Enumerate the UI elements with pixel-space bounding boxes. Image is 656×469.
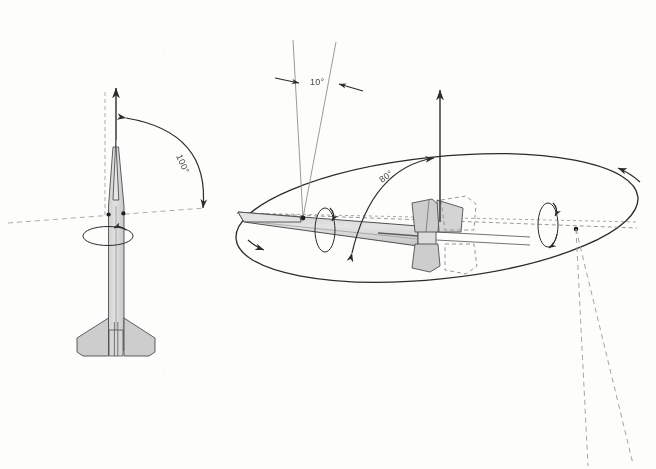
technical-diagram: 100° 10° <box>0 0 656 469</box>
paper-background <box>0 0 656 469</box>
diagram-canvas: 100° 10° <box>0 0 656 469</box>
rocket-fin-left-center <box>109 330 123 356</box>
pivot-point-left-b <box>121 211 125 215</box>
rocket-fin-right-upper-port <box>412 199 440 232</box>
cone-apex-point <box>301 216 306 221</box>
cone-angle-label: 10° <box>310 77 325 87</box>
rocket-fin-right-lower-port <box>412 244 440 272</box>
pivot-point-left-a <box>107 212 111 216</box>
